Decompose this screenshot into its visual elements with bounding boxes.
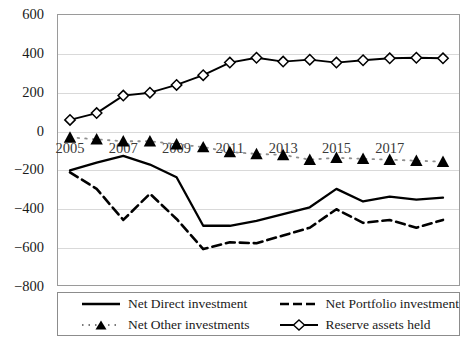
- data-point-marker-diamond: [65, 115, 75, 125]
- legend-item-net-direct-investment: Net Direct investment: [58, 297, 256, 311]
- data-point-marker-diamond: [91, 108, 101, 118]
- data-point-marker-diamond: [438, 53, 448, 63]
- data-point-marker-diamond: [251, 53, 261, 63]
- data-point-marker-triangle: [330, 152, 342, 163]
- series-reserve-assets-held: [65, 53, 448, 126]
- legend-item-reserve-assets-held: Reserve assets held: [256, 318, 459, 332]
- legend-swatch-dashed-line: [276, 298, 322, 310]
- legend-item-net-other-investments: Net Other investments: [58, 318, 256, 332]
- legend-swatch-diamond-line: [276, 319, 322, 331]
- chart-root: 6004002000−200−400−600−800 2005200720092…: [0, 0, 473, 340]
- legend-swatch-solid-line: [78, 298, 124, 310]
- series-net-direct-investment: [70, 156, 443, 226]
- data-point-marker-diamond: [411, 53, 421, 63]
- data-point-marker-triangle: [277, 149, 289, 160]
- data-point-marker-diamond: [225, 57, 235, 67]
- legend-label: Reserve assets held: [326, 318, 431, 332]
- data-point-marker-diamond: [118, 90, 128, 100]
- legend-label: Net Other investments: [128, 318, 249, 332]
- data-point-marker-triangle: [117, 135, 129, 146]
- legend-swatch-dotted-triangle: [78, 319, 124, 331]
- legend: Net Direct investment Net Portfolio inve…: [57, 292, 460, 336]
- series-lines: [0, 0, 473, 340]
- data-point-marker-diamond: [331, 57, 341, 67]
- data-point-marker-triangle: [437, 155, 449, 166]
- data-point-marker-triangle: [224, 146, 236, 157]
- series-net-portfolio-investment: [70, 172, 443, 249]
- legend-label: Net Direct investment: [128, 297, 247, 311]
- legend-label: Net Portfolio investment: [326, 297, 459, 311]
- data-point-marker-diamond: [198, 70, 208, 80]
- data-point-marker-diamond: [278, 56, 288, 66]
- data-point-marker-triangle: [64, 131, 76, 142]
- data-point-marker-diamond: [385, 53, 395, 63]
- data-point-marker-diamond: [171, 80, 181, 90]
- data-point-marker-triangle: [384, 154, 396, 165]
- data-point-marker-diamond: [145, 87, 155, 97]
- legend-item-net-portfolio-investment: Net Portfolio investment: [256, 297, 459, 311]
- data-point-marker-triangle: [170, 138, 182, 149]
- data-point-marker-diamond: [358, 55, 368, 65]
- series-net-other-investments: [64, 131, 449, 167]
- data-point-marker-diamond: [305, 54, 315, 64]
